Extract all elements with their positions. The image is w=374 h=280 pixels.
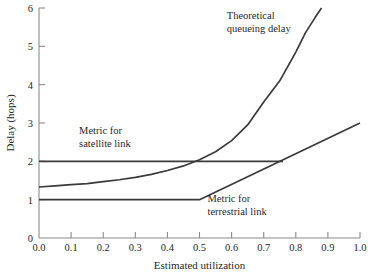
x-tick-label: 0.7 xyxy=(257,242,270,253)
annotation-theoretical-queueing-delay: Theoretical queueing delay xyxy=(227,10,292,34)
annotation-line: satellite link xyxy=(79,138,131,149)
x-tick-label: 0.2 xyxy=(97,242,110,253)
y-tick-label: 6 xyxy=(28,3,33,14)
x-tick-label: 0.1 xyxy=(65,242,78,253)
x-axis-title: Estimated utilization xyxy=(154,259,246,271)
annotation-metric-terrestrial-link: Metric for terrestrial link xyxy=(208,193,268,217)
y-tick-label: 4 xyxy=(28,80,34,91)
series-theoretical-queueing-delay xyxy=(39,8,321,187)
annotation-metric-satellite-link: Metric for satellite link xyxy=(79,125,131,149)
y-tick-label: 5 xyxy=(28,41,33,52)
annotation-line: Metric for xyxy=(208,193,251,204)
y-tick-label: 2 xyxy=(28,156,33,167)
x-tick-label: 0.3 xyxy=(129,242,142,253)
x-tick-label: 0.0 xyxy=(32,242,45,253)
x-tick-label: 1.0 xyxy=(353,242,366,253)
annotation-line: Metric for xyxy=(79,125,122,136)
x-tick-label: 0.4 xyxy=(161,242,175,253)
y-tick-label: 3 xyxy=(28,118,33,129)
x-axis-tick-labels: 0.0 0.1 0.2 0.3 0.4 0.5 0.6 0.7 0.8 0.9 … xyxy=(32,242,366,253)
chart-plot-area: 6 5 4 3 2 1 0 0.0 0.1 0.2 0.3 0.4 xyxy=(0,0,374,280)
annotation-line: queueing delay xyxy=(227,23,292,34)
y-axis-title: Delay (hops) xyxy=(4,94,17,151)
y-axis-tick-labels: 6 5 4 3 2 1 0 xyxy=(28,3,34,244)
x-tick-label: 0.5 xyxy=(193,242,206,253)
x-tick-label: 0.8 xyxy=(289,242,302,253)
annotation-line: Theoretical xyxy=(227,10,275,21)
chart-figure: 6 5 4 3 2 1 0 0.0 0.1 0.2 0.3 0.4 xyxy=(0,0,374,280)
y-axis-ticks xyxy=(39,46,45,199)
y-tick-label: 1 xyxy=(28,195,33,206)
x-tick-label: 0.6 xyxy=(225,242,238,253)
x-axis-ticks xyxy=(71,232,328,238)
annotation-line: terrestrial link xyxy=(208,206,268,217)
x-tick-label: 0.9 xyxy=(321,242,334,253)
